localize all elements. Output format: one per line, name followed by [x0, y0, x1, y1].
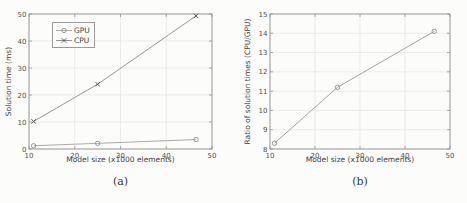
- series-line-gpu: [34, 140, 196, 146]
- cross-marker-icon: [56, 36, 72, 45]
- y-tick-label: 13: [259, 49, 268, 57]
- chart-b: Ratio of solution times (CPU/GPU) 102030…: [233, 0, 467, 203]
- legend-label-gpu: GPU: [74, 26, 90, 35]
- y-tick-label: 0: [22, 146, 26, 154]
- y-tick-label: 9: [263, 126, 267, 134]
- chart-b-plot-area: 102030405089101112131415: [233, 0, 467, 203]
- y-tick-label: 8: [263, 146, 267, 154]
- y-tick-label: 12: [259, 68, 268, 76]
- y-tick-label: 10: [259, 107, 268, 115]
- y-tick-label: 11: [259, 88, 268, 96]
- legend-entry-gpu: GPU: [56, 25, 90, 35]
- y-tick-label: 30: [18, 65, 27, 73]
- legend-entry-cpu: CPU: [56, 35, 90, 45]
- y-tick-label: 20: [18, 92, 27, 100]
- legend-label-cpu: CPU: [74, 36, 89, 45]
- chart-a-legend: GPUCPU: [52, 22, 95, 48]
- y-tick-label: 15: [259, 11, 268, 19]
- y-tick-label: 10: [18, 119, 27, 127]
- circle-marker-icon: [56, 26, 72, 35]
- data-point-marker-cpu: [95, 82, 99, 86]
- y-tick-label: 40: [18, 38, 27, 46]
- y-tick-label: 50: [18, 11, 27, 19]
- y-tick-label: 14: [259, 30, 268, 38]
- chart-a-plot-area: 102030405001020304050: [0, 0, 233, 203]
- data-point-marker-cpu: [31, 119, 35, 123]
- chart-b-caption: (b): [270, 175, 450, 188]
- chart-a-x-axis-label: Model size (x1000 elements): [29, 155, 212, 164]
- chart-a-caption: (a): [29, 175, 212, 188]
- chart-a: Solution time (ms) 102030405001020304050…: [0, 0, 233, 203]
- chart-b-x-axis-label: Model size (x1000 elements): [270, 155, 450, 164]
- series-line-cpu-gpu-ratio: [275, 31, 435, 143]
